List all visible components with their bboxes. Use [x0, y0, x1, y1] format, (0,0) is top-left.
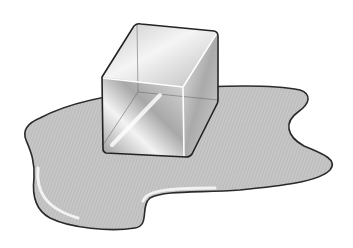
melting-ice-cube-illustration: Illustration of a melting ice cube sitti…: [0, 0, 353, 248]
illustration-canvas: [0, 0, 353, 248]
ice-cube: [102, 24, 218, 157]
